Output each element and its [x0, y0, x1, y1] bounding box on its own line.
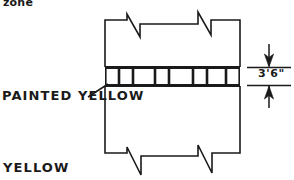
break-line-top [105, 12, 240, 67]
label-zone: zone [3, 0, 33, 8]
label-painted-yellow: PAINTED YELLOW [2, 89, 144, 102]
label-yellow: YELLOW [3, 161, 69, 174]
dimension-value-label: 3'6" [258, 68, 285, 79]
roadway-outline-top [105, 12, 240, 67]
band-dividers [119, 68, 226, 85]
painted-band [105, 67, 240, 86]
drawing-canvas: zone PAINTED YELLOW YELLOW 3'6" [0, 0, 294, 180]
